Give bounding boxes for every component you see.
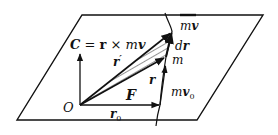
label-C-equation: C = r × mv (70, 37, 146, 52)
label-dr: dr (175, 39, 191, 53)
label-r0: r0 (110, 107, 121, 123)
label-mv0: mv0 (171, 85, 194, 101)
label-r: r (149, 73, 157, 87)
label-F: F (125, 87, 137, 103)
label-mv: mv (180, 19, 199, 33)
label-r-prime: r′ (113, 53, 122, 69)
label-m: m (172, 53, 183, 67)
trajectory-curve (156, 13, 172, 126)
label-O: O (63, 100, 74, 115)
diagram-figure: C = r × mv r′ r F O r0 mv dr m mv0 (0, 0, 278, 135)
mv0-vector (160, 66, 166, 105)
